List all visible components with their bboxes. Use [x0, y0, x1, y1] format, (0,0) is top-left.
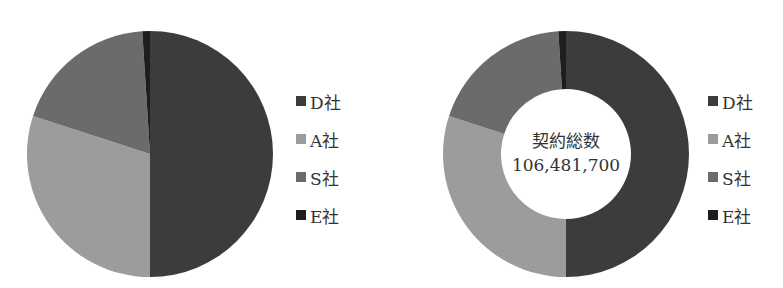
- pie-chart: D社 A社 S社 E社: [0, 0, 390, 288]
- donut-center-value: 106,481,700: [506, 153, 626, 177]
- slice-D社: [150, 31, 273, 277]
- donut-center-title: 契約総数: [506, 129, 626, 153]
- legend-swatch-d: [296, 96, 306, 106]
- legend-item-e: E社: [296, 196, 341, 234]
- pie-legend: D社 A社 S社 E社: [296, 82, 341, 234]
- legend-item-a: A社: [708, 120, 753, 158]
- legend-swatch-a: [296, 134, 306, 144]
- donut-center-label: 契約総数 106,481,700: [506, 129, 626, 177]
- donut-chart: 契約総数 106,481,700 D社 A社 S社 E社: [416, 0, 783, 288]
- legend-swatch-e: [708, 210, 718, 220]
- legend-item-a: A社: [296, 120, 341, 158]
- legend-swatch-d: [708, 96, 718, 106]
- legend-swatch-s: [708, 172, 718, 182]
- legend-swatch-a: [708, 134, 718, 144]
- legend-item-s: S社: [296, 158, 341, 196]
- donut-legend: D社 A社 S社 E社: [708, 82, 753, 234]
- legend-item-e: E社: [708, 196, 753, 234]
- legend-swatch-e: [296, 210, 306, 220]
- legend-item-s: S社: [708, 158, 753, 196]
- legend-item-d: D社: [708, 82, 753, 120]
- legend-item-d: D社: [296, 82, 341, 120]
- slice-S社: [449, 31, 562, 134]
- pie-plot: [0, 0, 290, 288]
- legend-swatch-s: [296, 172, 306, 182]
